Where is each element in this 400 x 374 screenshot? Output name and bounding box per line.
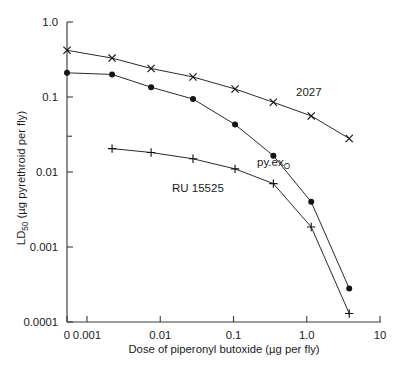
data-point [189, 155, 197, 163]
label-py-ex: py.exO [257, 156, 290, 171]
data-point [108, 144, 116, 152]
data-point [190, 96, 196, 102]
label-2027: 2027 [296, 86, 322, 98]
series-line [67, 73, 349, 289]
x-tick-label-1.0: 1.0 [299, 329, 315, 341]
data-point [308, 199, 314, 205]
y-axis-title: LD50 (µg pyrethroid per fly) [15, 111, 30, 246]
axes [67, 22, 381, 322]
x-axis-title: Dose of piperonyl butoxide (µg per fly) [128, 343, 319, 355]
data-point [346, 285, 352, 291]
y-axis-ticks: 1.00.10.010.0010.0001 [23, 16, 73, 328]
series-ru-15525 [108, 144, 354, 317]
data-point [232, 121, 238, 127]
data-point [231, 165, 239, 173]
x-tick-label-0.1: 0.1 [226, 329, 242, 341]
data-point [148, 84, 154, 90]
x-tick-label-0.01: 0.01 [149, 329, 171, 341]
label-ru-15525: RU 15525 [172, 182, 224, 194]
data-point [346, 135, 353, 142]
data-point [109, 71, 115, 77]
data-point [231, 85, 238, 92]
ld50-piperonyl-butoxide-chart: 1.00.10.010.0010.0001 00.0010.010.11.010… [0, 0, 400, 374]
y-axis-title-text: LD50 (µg pyrethroid per fly) [15, 111, 30, 246]
chart-container: 1.00.10.010.0010.0001 00.0010.010.11.010… [0, 0, 400, 374]
y-tick-label-1.0: 1.0 [42, 16, 58, 28]
x-axis-title-text: Dose of piperonyl butoxide (µg per fly) [128, 343, 319, 355]
data-point [270, 99, 277, 106]
series-py-ex-o [64, 70, 352, 292]
y-tick-label-0.01: 0.01 [36, 166, 58, 178]
data-point [64, 70, 70, 76]
series-line [112, 149, 349, 314]
series-annotations: 2027py.exORU 15525 [172, 86, 322, 194]
x-tick-label-0.001: 0.001 [73, 329, 101, 341]
y-tick-label-0.001: 0.001 [30, 241, 58, 253]
data-point [345, 309, 353, 317]
subscript: O [284, 162, 290, 171]
x-axis-ticks: 00.0010.010.11.010 [64, 316, 386, 341]
data-point [308, 112, 315, 119]
y-tick-label-0.0001: 0.0001 [23, 316, 58, 328]
y-tick-label-0.1: 0.1 [42, 91, 58, 103]
x-tick-label-0: 0 [64, 329, 70, 341]
data-point [147, 148, 155, 156]
x-tick-label-10: 10 [374, 329, 387, 341]
